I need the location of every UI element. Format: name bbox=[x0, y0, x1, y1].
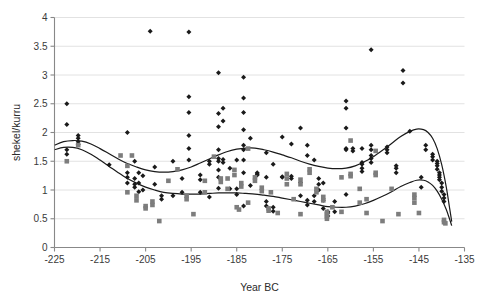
data-point-square bbox=[232, 168, 237, 173]
data-point-square bbox=[396, 212, 401, 217]
y-tick-label: 3.5 bbox=[34, 41, 48, 52]
data-point-diamond bbox=[369, 160, 374, 165]
data-point-square bbox=[203, 190, 208, 195]
data-point-square bbox=[373, 173, 378, 178]
data-point-diamond bbox=[271, 209, 276, 214]
data-point-square bbox=[298, 212, 303, 217]
data-point-square bbox=[253, 179, 258, 184]
data-point-diamond bbox=[298, 125, 303, 130]
data-point-diamond bbox=[312, 158, 317, 163]
data-point-diamond bbox=[180, 176, 185, 181]
data-point-diamond bbox=[64, 101, 69, 106]
data-point-diamond bbox=[241, 96, 246, 101]
data-point-diamond bbox=[321, 181, 326, 186]
data-point-diamond bbox=[216, 111, 221, 116]
y-tick-label: 4 bbox=[42, 12, 48, 23]
data-point-diamond bbox=[401, 81, 406, 86]
data-point-diamond bbox=[298, 193, 303, 198]
y-tick-label: 3 bbox=[42, 70, 48, 81]
data-point-diamond bbox=[186, 158, 191, 163]
data-point-diamond bbox=[221, 106, 226, 111]
data-point-diamond bbox=[216, 124, 221, 129]
scatter-chart: 00.511.522.533.54 -225-215-205-195-185-1… bbox=[0, 0, 486, 303]
data-point-diamond bbox=[207, 162, 212, 167]
data-point-square bbox=[134, 198, 139, 203]
data-point-diamond bbox=[241, 170, 246, 175]
data-point-diamond bbox=[132, 185, 137, 190]
data-point-diamond bbox=[125, 130, 130, 135]
data-point-diamond bbox=[152, 182, 157, 187]
data-point-square bbox=[266, 208, 271, 213]
data-point-square bbox=[212, 154, 217, 159]
data-point-diamond bbox=[221, 160, 226, 165]
data-point-diamond bbox=[207, 194, 212, 199]
data-point-diamond bbox=[280, 175, 285, 180]
data-point-square bbox=[166, 179, 171, 184]
data-point-square bbox=[285, 172, 290, 177]
data-point-square bbox=[239, 184, 244, 189]
data-point-diamond bbox=[125, 181, 130, 186]
y-axis-group: 00.511.522.533.54 bbox=[34, 12, 55, 253]
data-point-square bbox=[237, 207, 242, 212]
data-point-diamond bbox=[221, 119, 226, 124]
data-point-square bbox=[412, 196, 417, 201]
data-point-square bbox=[285, 176, 290, 181]
x-tick-label: -165 bbox=[318, 254, 338, 265]
data-point-diamond bbox=[227, 166, 232, 171]
chart-canvas: 00.511.522.533.54 -225-215-205-195-185-1… bbox=[0, 0, 486, 303]
data-point-square bbox=[321, 198, 326, 203]
data-point-square bbox=[125, 190, 130, 195]
data-point-square bbox=[325, 216, 330, 221]
y-tick-label: 0 bbox=[42, 242, 48, 253]
data-point-diamond bbox=[152, 165, 157, 170]
data-point-diamond bbox=[241, 204, 246, 209]
data-point-diamond bbox=[198, 177, 203, 182]
data-point-square bbox=[364, 211, 369, 216]
data-point-diamond bbox=[216, 70, 221, 75]
data-point-diamond bbox=[344, 192, 349, 197]
data-point-square bbox=[298, 177, 303, 182]
data-point-diamond bbox=[360, 146, 365, 151]
data-point-square bbox=[246, 146, 251, 151]
x-tick-label: -135 bbox=[454, 254, 474, 265]
data-point-diamond bbox=[216, 159, 221, 164]
data-point-square bbox=[357, 200, 362, 205]
data-point-diamond bbox=[125, 170, 130, 175]
data-point-square bbox=[125, 164, 130, 169]
data-point-diamond bbox=[394, 170, 399, 175]
data-point-diamond bbox=[241, 110, 246, 115]
data-point-diamond bbox=[234, 186, 239, 191]
y-tick-label: 2.5 bbox=[34, 98, 48, 109]
data-point-square bbox=[65, 159, 70, 164]
data-point-diamond bbox=[407, 129, 412, 134]
data-point-square bbox=[246, 200, 251, 205]
data-point-diamond bbox=[271, 162, 276, 167]
data-point-diamond bbox=[344, 98, 349, 103]
data-point-diamond bbox=[186, 29, 191, 34]
data-point-square bbox=[175, 167, 180, 172]
data-point-diamond bbox=[344, 106, 349, 111]
y-tick-label: 2 bbox=[42, 127, 48, 138]
x-tick-label: -185 bbox=[227, 254, 247, 265]
data-point-square bbox=[348, 174, 353, 179]
data-point-square bbox=[157, 219, 162, 224]
x-tick-label: -195 bbox=[181, 254, 201, 265]
data-point-square bbox=[412, 200, 417, 205]
data-point-square bbox=[130, 153, 135, 158]
data-point-diamond bbox=[234, 158, 239, 163]
data-point-diamond bbox=[316, 182, 321, 187]
data-point-diamond bbox=[264, 175, 269, 180]
x-tick-label: -225 bbox=[44, 254, 64, 265]
data-point-square bbox=[307, 170, 312, 175]
data-point-square bbox=[380, 219, 385, 224]
data-point-square bbox=[291, 197, 296, 202]
data-point-square bbox=[348, 138, 353, 143]
x-tick-label: -155 bbox=[363, 254, 383, 265]
data-point-diamond bbox=[64, 147, 69, 152]
data-point-diamond bbox=[248, 136, 253, 141]
data-point-diamond bbox=[385, 150, 390, 155]
data-point-diamond bbox=[369, 143, 374, 148]
data-point-square bbox=[203, 179, 208, 184]
data-point-diamond bbox=[186, 110, 191, 115]
data-points-group bbox=[64, 29, 447, 226]
